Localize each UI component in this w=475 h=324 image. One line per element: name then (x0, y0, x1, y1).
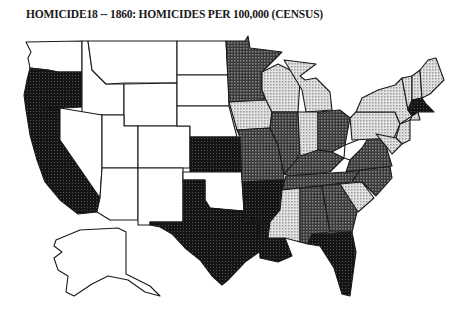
state-fl (308, 232, 356, 296)
state-mt (88, 41, 177, 84)
state-wy (124, 83, 177, 126)
state-ks (190, 137, 242, 172)
state-ma (408, 98, 434, 116)
state-pa (350, 112, 400, 140)
state-co (138, 126, 190, 168)
state-az (97, 168, 138, 220)
state-nd (177, 41, 228, 75)
state-wa (26, 41, 82, 72)
state-nm (138, 168, 183, 225)
state-ia (229, 100, 272, 130)
state-or (24, 68, 82, 110)
state-me (420, 58, 444, 98)
state-ak (54, 228, 160, 296)
us-choropleth-map (0, 0, 475, 324)
state-sd (177, 75, 229, 106)
